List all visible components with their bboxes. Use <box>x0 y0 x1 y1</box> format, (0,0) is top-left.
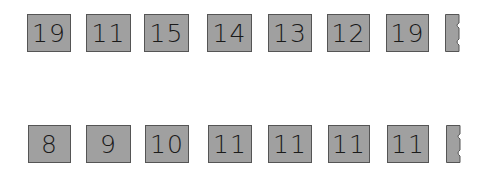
number-card: 11 <box>268 125 312 163</box>
number-row-2: 8 9 10 11 11 11 11 <box>0 125 489 165</box>
number-card: 19 <box>386 14 429 52</box>
number-card: 12 <box>327 14 370 52</box>
number-row-1: 19 11 15 14 13 12 19 <box>0 14 489 54</box>
number-card: 11 <box>86 14 131 52</box>
number-card: 15 <box>144 14 189 52</box>
number-card: 11 <box>208 125 252 163</box>
number-card: 11 <box>328 125 370 163</box>
number-card: 13 <box>268 14 312 52</box>
number-card: 8 <box>28 125 71 163</box>
number-card: 14 <box>207 14 252 52</box>
number-card: 11 <box>387 125 429 163</box>
number-card: 10 <box>145 125 189 163</box>
partial-card-icon <box>446 125 466 163</box>
partial-card-icon <box>445 14 465 52</box>
number-card: 9 <box>86 125 131 163</box>
number-card: 19 <box>27 14 71 52</box>
